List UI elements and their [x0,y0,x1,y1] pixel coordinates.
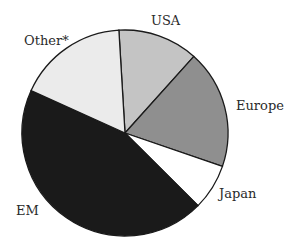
label-other: Other* [24,33,69,48]
label-japan: Japan [217,186,257,201]
label-europe: Europe [236,98,284,113]
pie-slices [22,30,228,236]
label-usa: USA [151,13,181,28]
label-em: EM [16,203,39,218]
pie-chart: USA Europe Japan EM Other* [0,0,291,251]
